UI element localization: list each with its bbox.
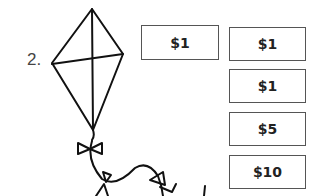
option-money-box[interactable]: $1 (229, 27, 306, 61)
option-money-box[interactable]: $5 (229, 112, 306, 146)
option-money-box[interactable]: $10 (229, 155, 306, 189)
option-money-box[interactable]: $1 (229, 69, 306, 103)
given-money-box: $1 (141, 25, 219, 60)
